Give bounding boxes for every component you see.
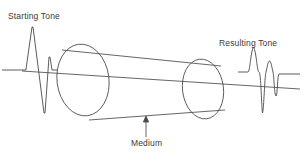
resulting-tone-waveform: [238, 47, 300, 113]
diagram-canvas: Starting Tone Resulting Tone Medium: [0, 0, 304, 157]
starting-tone-waveform: [2, 27, 58, 113]
cylinder-top-edge: [62, 50, 221, 66]
medium-leader-arrow: [143, 116, 148, 137]
cylinder-medium: [53, 41, 227, 121]
cylinder-left-face-ellipse: [53, 41, 113, 119]
label-starting-tone: Starting Tone: [8, 12, 60, 21]
axis-through-line: [22, 71, 300, 89]
sound-propagation-diagram: [0, 0, 304, 157]
output-wave-path: [238, 47, 300, 113]
label-medium: Medium: [131, 139, 162, 148]
input-wave-path: [2, 27, 58, 113]
medium-arrowhead-icon: [143, 116, 148, 122]
medium-axis-line: [22, 71, 300, 89]
label-resulting-tone: Resulting Tone: [219, 39, 277, 48]
